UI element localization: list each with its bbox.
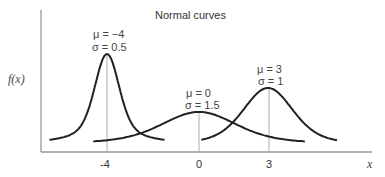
chart-title: Normal curves (155, 9, 226, 21)
x-tick-0: 0 (196, 158, 202, 170)
y-axis-label: f(x) (8, 72, 25, 86)
x-axis-label: x (366, 157, 373, 171)
chart-svg: Normal curves f(x) x -4 0 3 μ = −4 σ = 0… (0, 0, 385, 177)
annotation-sigma-0-5: σ = 0.5 (92, 41, 127, 53)
annotation-mu-3: μ = 3 (257, 63, 282, 75)
annotation-mu-neg4: μ = −4 (93, 28, 124, 40)
annotation-sigma-1: σ = 1 (258, 75, 283, 87)
normal-curves-chart: Normal curves f(x) x -4 0 3 μ = −4 σ = 0… (0, 0, 385, 177)
annotation-mu-0: μ = 0 (186, 87, 211, 99)
annotation-sigma-1-5: σ = 1.5 (185, 99, 220, 111)
x-tick-3: 3 (266, 158, 272, 170)
x-tick-neg4: -4 (100, 158, 110, 170)
